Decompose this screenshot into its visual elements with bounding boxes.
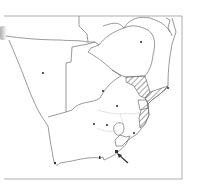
malawi-border [166, 18, 170, 32]
capital-dot-kimberley [93, 123, 95, 125]
map-container [0, 0, 201, 185]
hatched-range-coast [139, 104, 149, 128]
angola-zambia-border [79, 16, 88, 42]
capital-dot-gaborone [102, 90, 104, 92]
provincial-borders [97, 110, 140, 131]
hatched-range-north [126, 76, 150, 98]
southern-africa-map [0, 0, 201, 185]
capital-dot-windhoek [42, 72, 44, 74]
capital-dots [42, 41, 169, 134]
lesotho-border [114, 123, 124, 135]
country-borders [6, 16, 176, 165]
zimbabwe-border [99, 26, 155, 77]
location-arrow-icon [117, 153, 128, 163]
namibia-coast [9, 40, 48, 126]
coast-markers [54, 150, 118, 164]
capital-dot-durban [133, 132, 135, 134]
capital-dot-bloemfontein [106, 124, 108, 126]
namibia-botswana-border [48, 47, 72, 117]
capital-dot-coast-east [167, 87, 169, 89]
angola-border [6, 36, 95, 42]
transkei-border [115, 135, 130, 146]
caprivi-strip [72, 42, 99, 52]
edge-shadow [0, 26, 7, 40]
botswana-border [66, 52, 121, 112]
capital-dot-lusaka [140, 41, 142, 43]
capital-dot-pretoria [116, 105, 118, 107]
